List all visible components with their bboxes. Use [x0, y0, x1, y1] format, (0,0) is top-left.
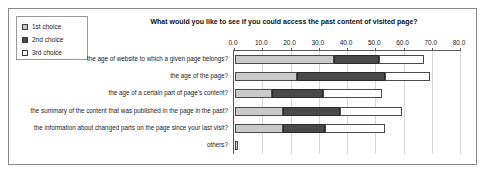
- bar-segment-2: [272, 89, 323, 98]
- x-axis-tick: [262, 48, 263, 51]
- x-axis-tick-labels: 0.010.020.030.040.050.060.070.080.0: [9, 39, 476, 49]
- x-tick-label: 10.0: [255, 39, 268, 46]
- x-tick-label: 50.0: [368, 39, 381, 46]
- gridline: [319, 51, 320, 154]
- x-tick-label: 70.0: [424, 39, 437, 46]
- bar-segment-3: [379, 55, 424, 64]
- gridline: [375, 51, 376, 154]
- bar-segment-3: [325, 124, 384, 133]
- plot-area: [233, 50, 461, 154]
- gridline: [262, 51, 263, 154]
- legend-swatch-1st-choice-icon: [22, 24, 28, 30]
- category-label: the information about changed parts on t…: [34, 124, 228, 132]
- x-axis-tick: [319, 48, 320, 51]
- category-label: the age of website to which a given page…: [87, 55, 228, 63]
- x-axis-tick: [375, 48, 376, 51]
- x-axis-tick: [291, 48, 292, 51]
- bar-segment-1: [235, 141, 238, 150]
- x-axis-tick: [404, 48, 405, 51]
- bar-segment-3: [385, 72, 430, 81]
- gridline: [347, 51, 348, 154]
- x-axis-tick: [432, 48, 433, 51]
- bar-segment-1: [235, 72, 297, 81]
- x-axis-tick: [347, 48, 348, 51]
- x-tick-label: 80.0: [453, 39, 466, 46]
- chart-title: What would you like to see if you could …: [99, 17, 469, 26]
- gridline: [432, 51, 433, 154]
- legend-item-1st-choice: 1st choice: [22, 20, 87, 33]
- x-tick-label: 20.0: [283, 39, 296, 46]
- gridline: [404, 51, 405, 154]
- gridline: [291, 51, 292, 154]
- x-tick-label: 40.0: [340, 39, 353, 46]
- x-tick-label: 60.0: [396, 39, 409, 46]
- x-tick-label: 0.0: [228, 39, 237, 46]
- chart-figure: 1st choice 2nd choice 3rd choice What wo…: [8, 8, 477, 165]
- bar-segment-1: [235, 89, 272, 98]
- category-label: the age of a certain part of page's cont…: [108, 89, 228, 97]
- category-axis-labels: the age of website to which a given page…: [9, 50, 231, 153]
- bar-segment-2: [297, 72, 385, 81]
- category-label: others?: [207, 141, 228, 149]
- legend-label-1st-choice: 1st choice: [32, 22, 61, 31]
- x-tick-label: 30.0: [311, 39, 324, 46]
- bar-segment-1: [235, 124, 283, 133]
- bar-segment-1: [235, 55, 334, 64]
- bar-segment-3: [323, 89, 382, 98]
- category-label: the summary of the content that was publ…: [31, 107, 228, 115]
- bar-segment-1: [235, 107, 283, 116]
- category-label: the age of the page?: [170, 72, 228, 80]
- x-axis-tick: [460, 48, 461, 51]
- x-axis-tick: [234, 48, 235, 51]
- bar-segment-2: [283, 107, 340, 116]
- bar-segment-3: [340, 107, 402, 116]
- bar-segment-2: [283, 124, 325, 133]
- gridline: [460, 51, 461, 154]
- bar-segment-2: [334, 55, 379, 64]
